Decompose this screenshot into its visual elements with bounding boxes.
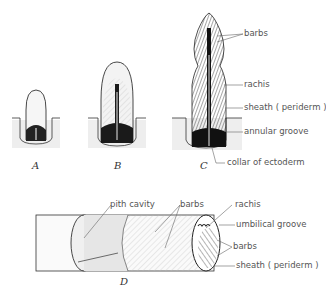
label-barbs-d-top: barbs bbox=[180, 200, 204, 209]
label-umbilical-groove: umbilical groove bbox=[236, 220, 306, 229]
panel-c-drawing bbox=[172, 13, 242, 150]
caption-b: B bbox=[114, 160, 121, 171]
label-barbs-d-right: barbs bbox=[233, 242, 257, 251]
label-annular-groove: annular groove bbox=[244, 127, 309, 136]
label-collar-of-ectoderm: collar of ectoderm bbox=[227, 158, 305, 167]
panel-a-drawing bbox=[12, 90, 60, 148]
panel-b-drawing bbox=[88, 62, 146, 148]
label-sheath-c: sheath ( periderm ) bbox=[244, 103, 326, 112]
label-sheath-d: sheath ( periderm ) bbox=[236, 261, 318, 270]
caption-d: D bbox=[120, 276, 128, 287]
label-rachis-d: rachis bbox=[235, 200, 261, 209]
panel-d-drawing bbox=[36, 215, 220, 271]
caption-c: C bbox=[200, 160, 208, 171]
label-pith-cavity: pith cavity bbox=[110, 200, 155, 209]
caption-a: A bbox=[32, 160, 39, 171]
label-rachis-c: rachis bbox=[244, 80, 270, 89]
label-barbs-c: barbs bbox=[244, 29, 268, 38]
